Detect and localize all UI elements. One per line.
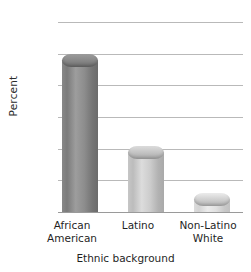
x-category-line-2: White [168, 232, 248, 245]
bar-chart: Percent 30 25 20 15 10 5 0 African [0, 0, 251, 272]
bar-african-american[interactable] [62, 60, 98, 212]
bar-cap-latino [128, 146, 164, 159]
x-category-line-1: Latino [102, 219, 174, 232]
x-category-line-1: Non-Latino [168, 219, 248, 232]
bar-non-latino-white[interactable] [194, 199, 230, 212]
x-category-line-2: American [36, 232, 108, 245]
plot-area [58, 22, 243, 212]
x-category-label-african-american: African American [36, 219, 108, 244]
x-category-label-latino: Latino [102, 219, 174, 232]
x-category-label-non-latino-white: Non-Latino White [168, 219, 248, 244]
x-category-line-1: African [36, 219, 108, 232]
y-axis-title: Percent [7, 61, 19, 131]
bar-cap-african-american [62, 54, 98, 67]
bar-cap-non-latino-white [194, 193, 230, 206]
bar-body-african-american [62, 60, 98, 212]
gridline-30 [58, 22, 243, 23]
bar-latino[interactable] [128, 152, 164, 212]
x-axis-title: Ethnic background [0, 252, 251, 264]
axis-baseline [58, 212, 243, 213]
bar-body-latino [128, 152, 164, 212]
